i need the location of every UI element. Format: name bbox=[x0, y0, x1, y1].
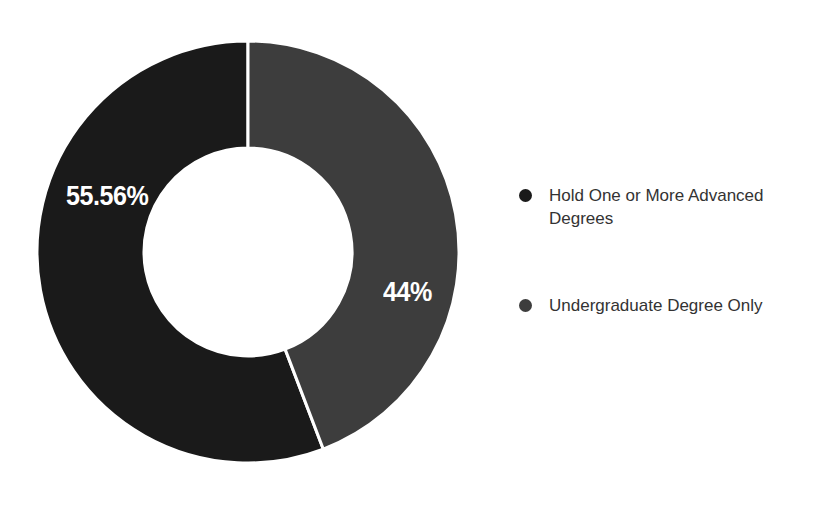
legend-item-label: Hold One or More Advanced Degrees bbox=[549, 184, 764, 230]
legend-item-undergraduate-only[interactable]: Undergraduate Degree Only bbox=[519, 294, 809, 317]
circle-marker-icon bbox=[519, 189, 532, 202]
legend-item-label: Undergraduate Degree Only bbox=[549, 294, 764, 317]
legend-item-advanced-degrees[interactable]: Hold One or More Advanced Degrees bbox=[519, 184, 809, 230]
donut-chart-figure: 55.56% 44% Hold One or More Advanced Deg… bbox=[0, 0, 833, 506]
circle-marker-icon bbox=[519, 299, 532, 312]
donut-svg bbox=[0, 0, 500, 506]
slice-value-label-undergraduate-only: 44% bbox=[383, 279, 432, 306]
chart-legend: Hold One or More Advanced Degrees Underg… bbox=[519, 184, 809, 317]
slice-value-label-advanced-degrees: 55.56% bbox=[66, 183, 148, 210]
donut-plot-area: 55.56% 44% bbox=[0, 0, 500, 506]
